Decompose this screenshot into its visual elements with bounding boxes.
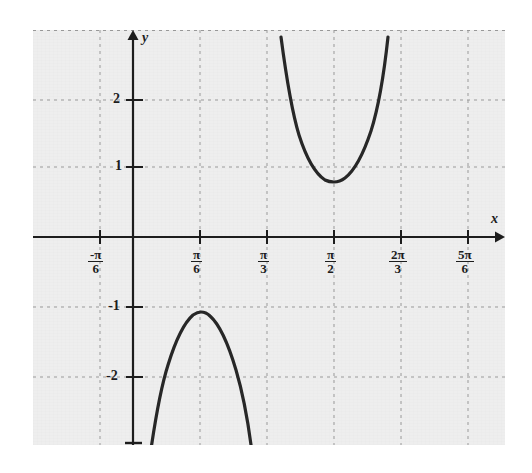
xtick-label-pi-over-2: π 2 xyxy=(325,248,336,276)
x-axis-label: x xyxy=(491,212,498,226)
plot-area xyxy=(33,30,505,445)
xtick-label-pi-over-6-num: π xyxy=(191,248,202,262)
curve-branch-upper xyxy=(281,37,388,182)
xtick-label-pi-over-3-den: 3 xyxy=(258,262,269,275)
xtick-label-neg-pi-over-6-den: 6 xyxy=(88,262,103,275)
ytick-label-1: 1 xyxy=(115,159,122,173)
ytick-label-minus-2: -2 xyxy=(106,369,118,383)
function-curve xyxy=(33,30,505,445)
ytick-label-2: 2 xyxy=(113,92,120,106)
xtick-label-neg-pi-over-6-num: -π xyxy=(88,248,103,262)
xtick-label-pi-over-3: π 3 xyxy=(258,248,269,276)
xtick-label-five-pi-over-6-den: 6 xyxy=(456,262,474,275)
xtick-label-pi-over-2-den: 2 xyxy=(325,262,336,275)
xtick-label-two-pi-over-3-num: 2π xyxy=(389,248,407,262)
xtick-label-two-pi-over-3-den: 3 xyxy=(389,262,407,275)
xtick-label-five-pi-over-6-num: 5π xyxy=(456,248,474,262)
y-axis-label: y xyxy=(142,31,148,45)
xtick-label-neg-pi-over-6: -π 6 xyxy=(88,248,103,276)
xtick-label-two-pi-over-3: 2π 3 xyxy=(389,248,407,276)
xtick-label-pi-over-6: π 6 xyxy=(191,248,202,276)
graph-figure: -π 6 π 6 π 3 π 2 2π 3 5π 6 2 1 -1 xyxy=(0,0,532,473)
xtick-label-pi-over-2-num: π xyxy=(325,248,336,262)
ytick-label-minus-1: -1 xyxy=(108,299,120,313)
xtick-label-pi-over-3-num: π xyxy=(258,248,269,262)
xtick-label-pi-over-6-den: 6 xyxy=(191,262,202,275)
curve-branch-lower xyxy=(147,312,255,445)
xtick-label-five-pi-over-6: 5π 6 xyxy=(456,248,474,276)
